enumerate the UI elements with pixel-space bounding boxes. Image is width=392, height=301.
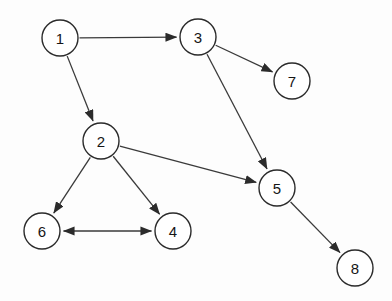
- graph-edge-1-3: [80, 37, 177, 38]
- graph-edge-3-5: [207, 54, 267, 169]
- graph-canvas: 12345678: [0, 0, 392, 301]
- graph-node-label-4: 4: [169, 223, 177, 240]
- graph-edge-2-4: [113, 156, 159, 214]
- graph-node-label-5: 5: [273, 180, 281, 197]
- graph-node-label-7: 7: [288, 73, 296, 90]
- graph-edge-5-8: [291, 202, 340, 253]
- graph-node-label-1: 1: [56, 30, 64, 47]
- graph-node-label-2: 2: [97, 133, 105, 150]
- graph-node-6[interactable]: 6: [24, 213, 60, 249]
- graph-edge-2-6: [54, 157, 91, 213]
- graph-node-label-3: 3: [194, 29, 202, 46]
- graph-node-5[interactable]: 5: [259, 170, 295, 206]
- graph-node-2[interactable]: 2: [83, 123, 119, 159]
- graph-edge-1-2: [67, 56, 93, 121]
- graph-node-label-6: 6: [38, 223, 46, 240]
- graph-node-8[interactable]: 8: [337, 250, 373, 286]
- graph-edge-3-7: [216, 45, 273, 72]
- graph-diagram: 12345678: [0, 0, 392, 301]
- graph-node-1[interactable]: 1: [42, 20, 78, 56]
- graph-node-label-8: 8: [351, 260, 359, 277]
- graph-edge-2-5: [120, 146, 256, 182]
- node-layer: 12345678: [24, 19, 373, 286]
- graph-node-7[interactable]: 7: [274, 63, 310, 99]
- graph-node-3[interactable]: 3: [180, 19, 216, 55]
- graph-node-4[interactable]: 4: [155, 213, 191, 249]
